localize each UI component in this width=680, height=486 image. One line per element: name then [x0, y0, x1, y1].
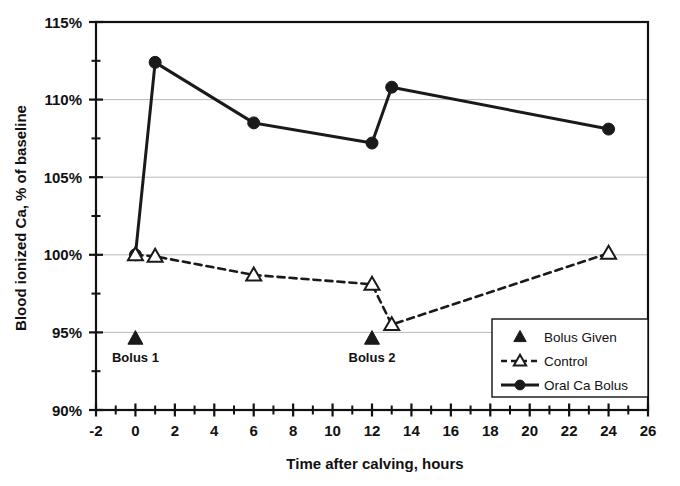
x-tick-label: 6	[250, 422, 258, 439]
plot-annotation: Bolus 2	[349, 350, 396, 365]
legend-label: Oral Ca Bolus	[544, 378, 628, 393]
y-tick-label: 110%	[44, 91, 82, 108]
x-tick-label: 12	[364, 422, 381, 439]
data-point-circle	[366, 137, 378, 149]
x-tick-label: 14	[403, 422, 420, 439]
data-point-circle	[248, 117, 260, 129]
x-tick-label: -2	[89, 422, 102, 439]
x-tick-label: 20	[521, 422, 538, 439]
y-tick-label: 100%	[44, 246, 82, 263]
chart-container: 90%95%100%105%110%115% -2024681012141618…	[0, 0, 680, 486]
legend-label: Bolus Given	[544, 330, 617, 345]
x-tick-label: 22	[561, 422, 578, 439]
data-point-circle	[149, 56, 161, 68]
x-tick-label: 24	[600, 422, 617, 439]
y-tick-label: 95%	[52, 324, 82, 341]
line-chart: 90%95%100%105%110%115% -2024681012141618…	[0, 0, 680, 486]
x-axis-tick-labels: -202468101214161820222426	[89, 422, 656, 439]
legend-label: Control	[544, 354, 588, 369]
x-tick-label: 18	[482, 422, 499, 439]
x-tick-label: 16	[443, 422, 460, 439]
x-tick-label: 8	[289, 422, 297, 439]
x-tick-label: 4	[210, 422, 219, 439]
y-axis-title: Blood ionized Ca, % of baseline	[12, 105, 29, 331]
x-axis-title: Time after calving, hours	[286, 455, 463, 472]
plot-annotation: Bolus 1	[112, 350, 159, 365]
x-tick-label: 2	[171, 422, 179, 439]
data-point-circle	[603, 123, 615, 135]
y-tick-label: 105%	[44, 169, 82, 186]
x-tick-label: 0	[131, 422, 139, 439]
data-point-circle	[515, 380, 525, 390]
y-tick-label: 90%	[52, 402, 82, 419]
legend: Bolus GivenControlOral Ca Bolus	[492, 319, 648, 397]
chart-background	[0, 0, 680, 486]
x-tick-label: 10	[324, 422, 341, 439]
data-point-circle	[386, 81, 398, 93]
x-tick-label: 26	[640, 422, 657, 439]
y-tick-label: 115%	[44, 14, 82, 31]
